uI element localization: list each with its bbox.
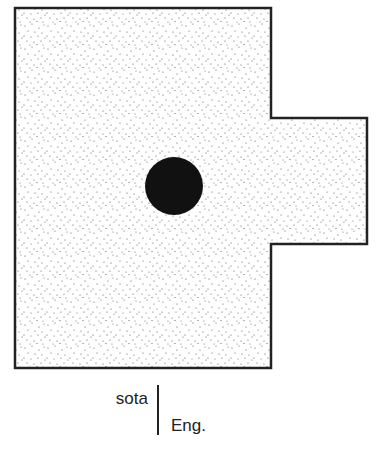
label-eng: Eng. xyxy=(171,417,206,434)
label-divider xyxy=(157,385,159,435)
position-marker xyxy=(145,157,203,215)
label-sota: sota xyxy=(116,390,148,407)
floor-plan-diagram xyxy=(0,0,381,451)
